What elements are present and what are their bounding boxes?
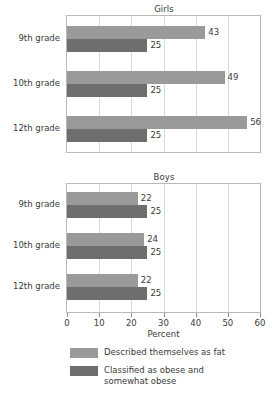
x-tick-30 xyxy=(164,313,165,317)
gridline-50 xyxy=(228,16,229,152)
x-tick-label-40: 40 xyxy=(190,318,201,328)
category-label-girls-2: 12th grade xyxy=(13,123,60,133)
category-label-boys-1: 10th grade xyxy=(13,240,60,250)
bar-value-girls-2-series1: 56 xyxy=(250,116,261,129)
bar-boys-2-series1 xyxy=(67,274,138,287)
panel-title-boys: Boys xyxy=(66,172,262,182)
x-tick-0 xyxy=(67,313,68,317)
page-edge-artifact xyxy=(0,391,272,397)
bar-value-boys-0-series1: 22 xyxy=(141,192,152,205)
x-tick-label-10: 10 xyxy=(94,318,105,328)
x-tick-10 xyxy=(99,313,100,317)
bar-value-girls-1-series2: 25 xyxy=(150,84,161,97)
bar-girls-1-series1 xyxy=(67,71,225,84)
x-tick-label-60: 60 xyxy=(255,318,266,328)
bar-boys-0-series1 xyxy=(67,192,138,205)
bar-value-girls-2-series2: 25 xyxy=(150,129,161,142)
gridline-50 xyxy=(228,184,229,312)
bar-girls-0-series1 xyxy=(67,26,205,39)
chart-legend: Described themselves as fat Classified a… xyxy=(0,345,272,389)
gridline-40 xyxy=(196,184,197,312)
bar-value-girls-0-series2: 25 xyxy=(150,39,161,52)
x-tick-label-0: 0 xyxy=(64,318,69,328)
legend-swatch-described-as-fat xyxy=(70,348,98,358)
x-axis-title: Percent xyxy=(66,329,261,339)
bar-value-boys-0-series2: 25 xyxy=(150,205,161,218)
bar-girls-1-series2 xyxy=(67,84,147,97)
bar-value-boys-1-series1: 24 xyxy=(147,233,158,246)
bar-boys-1-series2 xyxy=(67,246,147,259)
category-label-girls-0: 9th grade xyxy=(18,33,60,43)
bar-value-boys-1-series2: 25 xyxy=(150,246,161,259)
legend-label-1-line2: somewhat obese xyxy=(104,376,204,387)
panel-girls: Girls 432549255625 9th grade10th grade12… xyxy=(0,4,272,159)
category-label-girls-1: 10th grade xyxy=(13,78,60,88)
bar-value-boys-2-series2: 25 xyxy=(150,287,161,300)
plot-area-girls: 432549255625 xyxy=(66,15,261,153)
legend-label-1-line1: Classified as obese and xyxy=(104,365,204,376)
x-tick-60 xyxy=(260,313,261,317)
panel-boys: Boys 222524252225 9th grade10th grade12t… xyxy=(0,172,272,320)
chart-figure: Girls 432549255625 9th grade10th grade12… xyxy=(0,0,272,397)
x-tick-50 xyxy=(228,313,229,317)
x-tick-label-50: 50 xyxy=(222,318,233,328)
bar-girls-2-series1 xyxy=(67,116,247,129)
plot-area-boys: 222524252225 xyxy=(66,183,261,313)
panel-title-girls: Girls xyxy=(66,4,262,14)
bar-value-boys-2-series1: 22 xyxy=(141,274,152,287)
category-label-boys-2: 12th grade xyxy=(13,281,60,291)
legend-swatch-classified-obese xyxy=(70,366,98,376)
x-tick-label-30: 30 xyxy=(158,318,169,328)
x-tick-label-20: 20 xyxy=(126,318,137,328)
bar-boys-0-series2 xyxy=(67,205,147,218)
x-tick-40 xyxy=(196,313,197,317)
bar-value-girls-1-series1: 49 xyxy=(228,71,239,84)
bar-girls-0-series2 xyxy=(67,39,147,52)
legend-label-0-line1: Described themselves as fat xyxy=(104,347,225,358)
legend-label-1: Classified as obese and somewhat obese xyxy=(104,365,204,386)
bar-boys-2-series2 xyxy=(67,287,147,300)
bar-value-girls-0-series1: 43 xyxy=(208,26,219,39)
category-label-boys-0: 9th grade xyxy=(18,199,60,209)
x-tick-20 xyxy=(131,313,132,317)
bar-boys-1-series1 xyxy=(67,233,144,246)
bar-girls-2-series2 xyxy=(67,129,147,142)
gridline-30 xyxy=(164,184,165,312)
legend-label-0: Described themselves as fat xyxy=(104,347,225,358)
